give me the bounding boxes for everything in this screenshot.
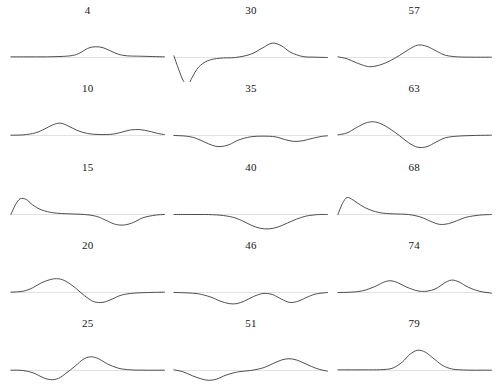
- chart-panel: 25: [6, 317, 169, 385]
- chart-panel: 4: [6, 4, 169, 82]
- waveform-curve: [174, 43, 328, 82]
- chart-panel: 20: [6, 239, 169, 317]
- waveform-curve: [174, 136, 328, 147]
- waveform-curve: [11, 279, 165, 303]
- panel-label: 51: [245, 317, 256, 330]
- panel-plot-area: [333, 174, 496, 239]
- waveform-curve: [11, 123, 165, 135]
- panel-plot-area: [333, 17, 496, 82]
- panel-plot-area: [333, 252, 496, 317]
- panel-label: 20: [82, 239, 93, 252]
- chart-panel: 15: [6, 161, 169, 239]
- panel-label: 40: [245, 161, 256, 174]
- waveform-curve: [174, 359, 328, 381]
- panel-plot-area: [169, 17, 332, 82]
- chart-panel: 57: [333, 4, 496, 82]
- panel-label: 10: [82, 82, 93, 95]
- waveform-curve: [11, 47, 165, 57]
- panel-plot-area: [6, 17, 169, 82]
- waveform-curve: [338, 45, 492, 67]
- panel-plot-area: [333, 330, 496, 385]
- panel-plot-area: [333, 95, 496, 160]
- panel-label: 63: [409, 82, 420, 95]
- waveform-curve: [11, 198, 165, 225]
- panel-plot-area: [169, 95, 332, 160]
- panel-label: 74: [409, 239, 420, 252]
- waveform-curve: [174, 214, 328, 229]
- panel-label: 30: [245, 4, 256, 17]
- chart-panel: 79: [333, 317, 496, 385]
- panel-plot-area: [6, 252, 169, 317]
- panel-plot-area: [169, 252, 332, 317]
- chart-panel: 40: [169, 161, 332, 239]
- panel-label: 79: [409, 317, 420, 330]
- chart-panel: 35: [169, 82, 332, 160]
- chart-panel: 74: [333, 239, 496, 317]
- chart-panel: 10: [6, 82, 169, 160]
- waveform-curve: [338, 197, 492, 224]
- waveform-curve: [11, 357, 165, 380]
- panel-label: 46: [245, 239, 256, 252]
- panel-label: 25: [82, 317, 93, 330]
- panel-plot-area: [6, 330, 169, 385]
- chart-panel: 46: [169, 239, 332, 317]
- panel-label: 35: [245, 82, 256, 95]
- waveform-curve: [174, 292, 328, 303]
- panel-plot-area: [6, 95, 169, 160]
- chart-panel: 51: [169, 317, 332, 385]
- chart-panel: 68: [333, 161, 496, 239]
- panel-label: 68: [409, 161, 420, 174]
- chart-panel: 63: [333, 82, 496, 160]
- waveform-curve: [338, 122, 492, 148]
- panel-label: 57: [409, 4, 420, 17]
- panel-label: 15: [82, 161, 93, 174]
- panel-plot-area: [6, 174, 169, 239]
- panel-plot-area: [169, 330, 332, 385]
- waveform-curve: [338, 280, 492, 293]
- panel-label: 4: [85, 4, 91, 17]
- chart-panel: 30: [169, 4, 332, 82]
- waveform-curve: [338, 351, 492, 371]
- panel-plot-area: [169, 174, 332, 239]
